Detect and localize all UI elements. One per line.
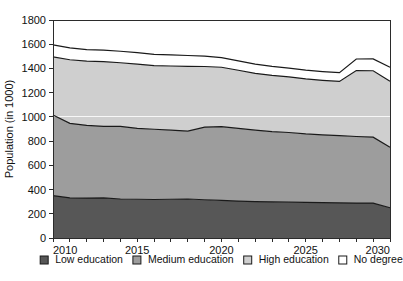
legend-label-medium-education[interactable]: Medium education (148, 253, 234, 265)
stacked-area-chart: 020040060080010001200140016001800 201020… (0, 0, 403, 281)
y-tick-label-1800: 1800 (22, 14, 46, 26)
legend-swatch-high-education[interactable] (244, 256, 252, 264)
y-axis: 020040060080010001200140016001800 (22, 14, 53, 244)
y-tick-label-400: 400 (28, 184, 46, 196)
legend-label-high-education[interactable]: High education (259, 253, 329, 265)
legend-label-low-education[interactable]: Low education (55, 253, 123, 265)
y-tick-label-1000: 1000 (22, 111, 46, 123)
legend-label-no-degree[interactable]: No degree (354, 253, 403, 265)
area-series-group (53, 45, 390, 238)
y-tick-label-1600: 1600 (22, 38, 46, 50)
y-axis-title: Population (in 1000) (3, 80, 15, 178)
legend-swatch-medium-education[interactable] (133, 256, 141, 264)
y-tick-label-200: 200 (28, 208, 46, 220)
chart-legend: Low educationMedium educationHigh educat… (40, 253, 403, 265)
y-tick-label-600: 600 (28, 159, 46, 171)
legend-swatch-low-education[interactable] (40, 256, 48, 264)
y-tick-label-0: 0 (40, 232, 46, 244)
x-tick-label-2015: 2015 (125, 244, 149, 256)
y-axis-title-text: Population (in 1000) (3, 80, 15, 178)
y-tick-label-1400: 1400 (22, 62, 46, 74)
y-tick-label-800: 800 (28, 135, 46, 147)
y-tick-label-1200: 1200 (22, 87, 46, 99)
chart-container: 020040060080010001200140016001800 201020… (0, 0, 403, 281)
legend-swatch-no-degree[interactable] (339, 256, 347, 264)
